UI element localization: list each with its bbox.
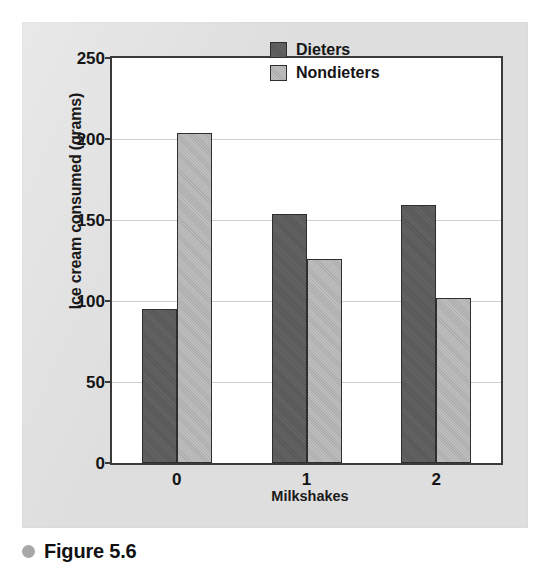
y-axis-tick-label: 200 xyxy=(77,131,105,148)
bar-nondieters-1 xyxy=(307,259,342,463)
bar-nondieters-0 xyxy=(177,133,212,463)
figure-caption: Figure 5.6 xyxy=(22,541,136,561)
y-axis-tick-label: 250 xyxy=(77,50,105,67)
bullet-circle-icon xyxy=(22,545,35,558)
bar-dieters-2 xyxy=(401,205,436,463)
y-axis-tick-mark xyxy=(105,381,112,383)
legend-item-nondieters[interactable]: Nondieters xyxy=(270,61,380,84)
legend-label-dieters: Dieters xyxy=(296,42,350,58)
y-axis-tick-label: 0 xyxy=(96,455,105,472)
y-axis-tick-mark xyxy=(105,219,112,221)
y-axis-tick-label: 150 xyxy=(77,212,105,229)
legend-label-nondieters: Nondieters xyxy=(296,65,380,81)
x-axis-tick-label: 0 xyxy=(172,471,181,488)
plot-area: 050100150200250012 xyxy=(110,56,503,465)
legend-item-dieters[interactable]: Dieters xyxy=(270,38,380,61)
figure-panel: Ice cream consumed (grams) 0501001502002… xyxy=(22,22,528,528)
bar-dieters-1 xyxy=(272,214,307,463)
y-axis-tick-mark xyxy=(105,462,112,464)
chart-legend: Dieters Nondieters xyxy=(270,38,380,84)
y-axis-tick-mark xyxy=(105,57,112,59)
y-axis-tick-label: 50 xyxy=(86,374,105,391)
gridline xyxy=(112,139,501,140)
y-axis-tick-mark xyxy=(105,138,112,140)
gridline xyxy=(112,220,501,221)
figure-caption-text: Figure 5.6 xyxy=(44,541,136,561)
x-axis-tick-label: 1 xyxy=(302,471,311,488)
bar-nondieters-2 xyxy=(436,298,471,463)
legend-swatch-dieters xyxy=(270,42,287,58)
legend-swatch-nondieters xyxy=(270,65,287,81)
x-axis-title: Milkshakes xyxy=(110,488,510,504)
y-axis-tick-mark xyxy=(105,300,112,302)
y-axis-tick-label: 100 xyxy=(77,293,105,310)
x-axis-tick-label: 2 xyxy=(431,471,440,488)
bar-dieters-0 xyxy=(142,309,177,463)
